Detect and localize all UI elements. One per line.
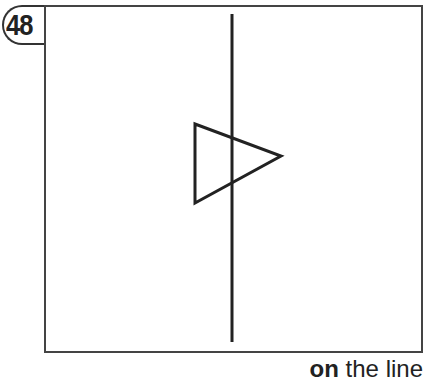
caption-rest: the line [339,355,423,382]
caption: on the line [310,355,423,382]
caption-bold: on [310,355,339,382]
triangle-shape [195,124,281,203]
figure-drawing [0,0,433,382]
